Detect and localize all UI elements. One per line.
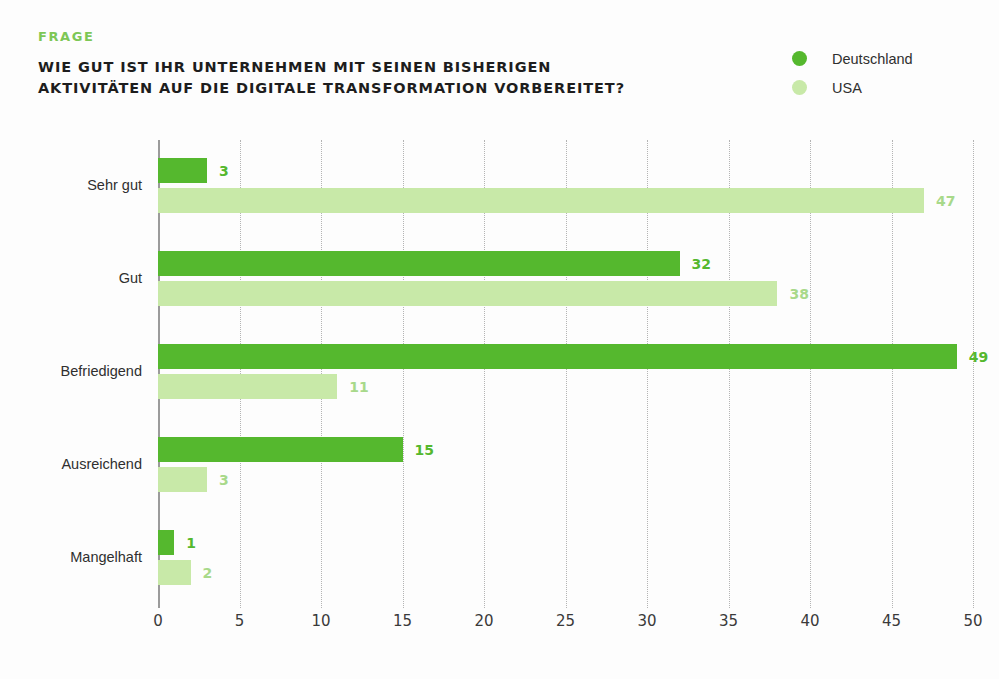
x-axis-tick-label: 0 (153, 612, 163, 630)
legend-swatch-icon (792, 80, 807, 95)
bar-row: 1 (158, 530, 973, 555)
x-axis-tick-label: 20 (474, 612, 493, 630)
bar-row: 3 (158, 467, 973, 492)
x-axis-tick-label: 25 (556, 612, 575, 630)
bar[interactable] (158, 374, 337, 399)
bar[interactable] (158, 530, 174, 555)
bar-row: 32 (158, 251, 973, 276)
x-axis-tick-label: 10 (311, 612, 330, 630)
x-axis-tick-label: 35 (719, 612, 738, 630)
chart-legend: DeutschlandUSA (792, 44, 967, 102)
bar[interactable] (158, 188, 924, 213)
bar[interactable] (158, 251, 680, 276)
bar-row: 11 (158, 374, 973, 399)
y-axis-label: Befriedigend (61, 363, 142, 379)
bar[interactable] (158, 467, 207, 492)
x-axis-tick-label: 30 (637, 612, 656, 630)
bar-value-label: 11 (349, 379, 368, 395)
y-axis-label: Gut (119, 270, 142, 286)
bar-value-label: 3 (219, 472, 229, 488)
legend-item-label: USA (832, 80, 862, 96)
bar-value-label: 15 (415, 442, 434, 458)
bar-value-label: 1 (186, 535, 196, 551)
bar[interactable] (158, 560, 191, 585)
bar-row: 2 (158, 560, 973, 585)
gridline (973, 140, 974, 608)
legend-item[interactable]: USA (792, 73, 967, 102)
y-axis-label: Ausreichend (61, 456, 142, 472)
x-axis-tick-label: 45 (882, 612, 901, 630)
bar-group: 3238 (158, 251, 973, 306)
legend-item-label: Deutschland (832, 51, 913, 67)
y-axis-label: Sehr gut (87, 177, 142, 193)
x-axis-tick-label: 5 (235, 612, 245, 630)
bar-value-label: 32 (692, 256, 711, 272)
x-axis-tick-label: 15 (393, 612, 412, 630)
kicker-label: FRAGE (38, 30, 698, 43)
page-title: WIE GUT IST IHR UNTERNEHMEN MIT SEINEN B… (38, 57, 698, 98)
bar-value-label: 38 (789, 286, 808, 302)
bar-value-label: 2 (203, 565, 213, 581)
x-axis-tick-label: 40 (800, 612, 819, 630)
bar-value-label: 3 (219, 163, 229, 179)
bar-group: 12 (158, 530, 973, 585)
legend-swatch-icon (792, 51, 807, 66)
bar[interactable] (158, 437, 403, 462)
bar[interactable] (158, 344, 957, 369)
bar[interactable] (158, 281, 777, 306)
bar-group: 153 (158, 437, 973, 492)
bar-group: 347 (158, 158, 973, 213)
bar[interactable] (158, 158, 207, 183)
y-axis-label: Mangelhaft (70, 549, 142, 565)
plot-area: 3473238491115312 (158, 140, 973, 608)
chart-header: FRAGE WIE GUT IST IHR UNTERNEHMEN MIT SE… (38, 30, 698, 98)
y-axis-category-labels: Sehr gutGutBefriedigendAusreichendMangel… (0, 140, 142, 608)
bar-value-label: 49 (969, 349, 988, 365)
bar-row: 49 (158, 344, 973, 369)
bar-row: 47 (158, 188, 973, 213)
x-axis-tick-label: 50 (963, 612, 982, 630)
bar-row: 15 (158, 437, 973, 462)
bar-value-label: 47 (936, 193, 955, 209)
bar-row: 3 (158, 158, 973, 183)
legend-item[interactable]: Deutschland (792, 44, 967, 73)
bar-group: 4911 (158, 344, 973, 399)
x-axis: 05101520253035404550in % (158, 612, 988, 642)
bar-row: 38 (158, 281, 973, 306)
